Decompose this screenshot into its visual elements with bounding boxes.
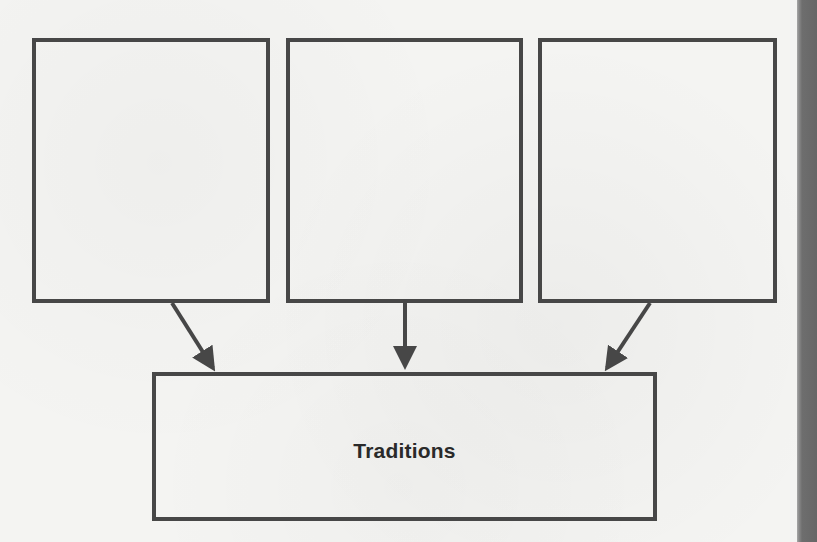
page-edge-bar bbox=[797, 0, 817, 542]
input-box-2[interactable] bbox=[286, 38, 523, 303]
traditions-box[interactable]: Traditions bbox=[152, 372, 657, 521]
input-box-3[interactable] bbox=[538, 38, 777, 303]
input-box-1[interactable] bbox=[32, 38, 270, 303]
traditions-label: Traditions bbox=[353, 439, 455, 463]
